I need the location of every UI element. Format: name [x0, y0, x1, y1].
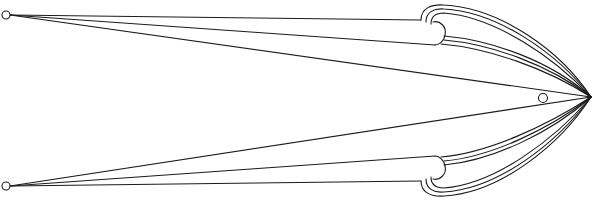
- top-curl-inner-loop: [433, 22, 445, 45]
- diagram-canvas: [0, 0, 600, 202]
- bottom-curl-upper-1: [444, 97, 591, 165]
- fan-curl-diagram: [0, 0, 600, 202]
- bottom-curl-upper-2: [444, 97, 591, 161]
- top-curl-outer-1: [421, 5, 591, 97]
- bottom-curl-inner-loop: [433, 156, 445, 179]
- top-left-node-icon: [2, 11, 10, 19]
- top-fan: [10, 5, 591, 97]
- top-curl-lower-3: [441, 44, 591, 97]
- bottom-left-node-icon: [2, 182, 10, 190]
- top-line-to-apex: [10, 15, 591, 97]
- bottom-fan: [10, 97, 591, 196]
- top-curl-outer-2: [426, 9, 591, 97]
- inner-node-icon: [539, 94, 548, 103]
- top-curl-lower-1: [444, 36, 591, 97]
